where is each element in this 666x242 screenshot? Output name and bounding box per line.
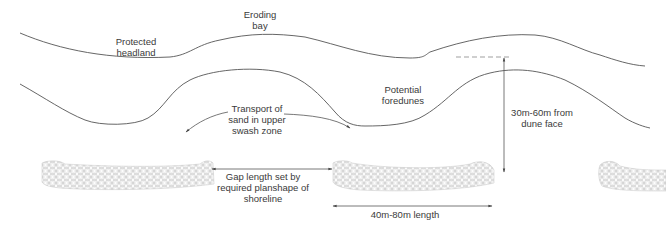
label-line: foredunes <box>373 95 433 106</box>
label-line: swash zone <box>222 125 292 136</box>
label-line: Transport of <box>222 103 292 114</box>
label-sand-transport: Transport of sand in upper swash zone <box>222 103 292 136</box>
label-potential-foredunes: Potential foredunes <box>373 84 433 106</box>
breakwater-3 <box>599 161 666 191</box>
label-line: Protected <box>106 36 166 47</box>
label-line: 40m-80m length <box>365 209 445 220</box>
label-protected-headland: Protected headland <box>106 36 166 58</box>
label-line: sand in upper <box>222 114 292 125</box>
breakwater-2 <box>333 161 494 191</box>
label-line: bay <box>240 20 280 31</box>
transport-arrow-right <box>284 114 350 128</box>
label-breakwater-length: 40m-80m length <box>365 209 445 220</box>
label-line: required planshape of <box>213 182 313 193</box>
label-line: dune face <box>507 118 577 129</box>
label-line: 30m-60m from <box>507 107 577 118</box>
label-gap-length: Gap length set by required planshape of … <box>213 171 313 204</box>
breakwater-1 <box>42 161 214 190</box>
label-line: shoreline <box>213 193 313 204</box>
label-offset: 30m-60m from dune face <box>507 107 577 129</box>
label-line: Gap length set by <box>213 171 313 182</box>
label-eroding-bay: Eroding bay <box>240 9 280 31</box>
label-line: Potential <box>373 84 433 95</box>
label-line: headland <box>106 47 166 58</box>
label-line: Eroding <box>240 9 280 20</box>
